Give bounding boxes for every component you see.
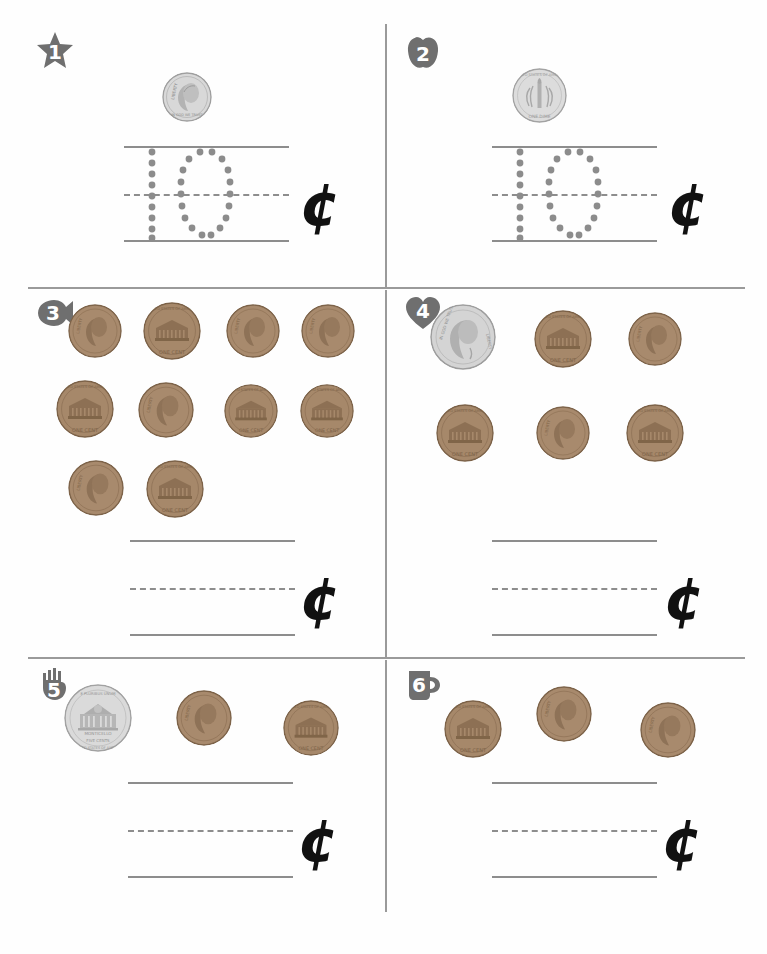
writing-line-top [492, 782, 657, 784]
panel-divider-vertical-3 [385, 660, 387, 912]
writing-line-bottom [128, 876, 293, 878]
svg-text:ONE CENT: ONE CENT [162, 507, 189, 513]
coin-penny-tails: UNITED STATES OF AMERICAONE CENT [534, 310, 592, 368]
answer-lines-2 [492, 146, 657, 242]
problem-number-badge-2: 2 [402, 30, 444, 72]
svg-text:UNITED STATES OF AMERICA: UNITED STATES OF AMERICA [629, 409, 681, 413]
problem-panel-4: 4 IN GOD WE TRUSTLIBERTY UNITED STATES O… [396, 292, 746, 652]
answer-lines-6[interactable] [492, 782, 657, 878]
panel-divider-vertical-1 [385, 24, 387, 288]
badge-number-text-5: 5 [47, 678, 61, 702]
coin-penny-tails: UNITED STATES OF AMERICAONE CENT [444, 700, 502, 758]
svg-text:UNITED STATES OF AMERICA: UNITED STATES OF AMERICA [227, 388, 276, 392]
coin-penny-heads: LIBERTY [138, 382, 194, 438]
cent-symbol-5: ¢ [298, 812, 338, 870]
coin-penny-tails: UNITED STATES OF AMERICAONE CENT [436, 404, 494, 462]
worksheet-page: 1 LIBERTY IN GOD WE TRUST [0, 0, 767, 954]
coin-penny-heads: LIBERTY [68, 304, 122, 358]
svg-text:FIVE CENTS: FIVE CENTS [86, 738, 110, 743]
svg-text:MONTICELLO: MONTICELLO [84, 731, 112, 736]
coin-penny-tails: UNITED STATES OF AMERICAONE CENT [56, 380, 114, 438]
writing-line-middle-dashed [130, 588, 295, 590]
coin-penny-tails: UNITED STATES OF AMERICAONE CENT [283, 700, 339, 756]
svg-text:ONE CENT: ONE CENT [550, 357, 577, 363]
answer-lines-4[interactable] [492, 540, 657, 636]
svg-text:ONE DIME: ONE DIME [528, 114, 550, 119]
coin-penny-heads: LIBERTY [628, 312, 682, 366]
svg-text:UNITED STATES OF AMERICA: UNITED STATES OF AMERICA [303, 388, 352, 392]
cent-symbol-2: ¢ [668, 176, 708, 234]
svg-text:UNITED STATES OF AMERICA: UNITED STATES OF AMERICA [286, 705, 336, 709]
svg-text:UNITED STATES OF AMERICA: UNITED STATES OF AMERICA [59, 385, 111, 389]
badge-number-text-1: 1 [48, 40, 62, 64]
cent-symbol-1: ¢ [300, 176, 340, 234]
svg-text:UNITED STATES OF AMERICA: UNITED STATES OF AMERICA [447, 705, 499, 709]
coin-penny-tails: UNITED STATES OF AMERICAONE CENT [143, 302, 201, 360]
coin-penny-tails: UNITED STATES OF AMERICAONE CENT [300, 384, 354, 438]
writing-line-bottom [492, 876, 657, 878]
coin-penny-heads: LIBERTY [301, 304, 355, 358]
badge-number-text-2: 2 [416, 42, 430, 66]
writing-line-top [492, 540, 657, 542]
writing-line-bottom [492, 634, 657, 636]
coin-dime-tails: UNITED STATES OF AMERICA ONE DIME [512, 68, 567, 123]
coin-penny-heads: LIBERTY [640, 702, 696, 758]
svg-text:UNITED STATES OF AMERICA: UNITED STATES OF AMERICA [514, 73, 566, 77]
svg-text:UNITED STATES OF AMERICA: UNITED STATES OF AMERICA [74, 746, 123, 750]
coin-penny-heads: LIBERTY [536, 686, 592, 742]
svg-text:ONE CENT: ONE CENT [642, 451, 669, 457]
svg-text:ONE CENT: ONE CENT [315, 428, 339, 433]
coin-penny-heads: LIBERTY [226, 304, 280, 358]
writing-line-top [128, 782, 293, 784]
coin-penny-tails: UNITED STATES OF AMERICAONE CENT [626, 404, 684, 462]
writing-line-middle-dashed [492, 588, 657, 590]
problem-panel-1: 1 LIBERTY IN GOD WE TRUST [28, 30, 378, 282]
badge-number-text-6: 6 [412, 673, 426, 697]
svg-text:UNITED STATES OF AMERICA: UNITED STATES OF AMERICA [146, 307, 198, 311]
problem-panel-6: 6 UNITED STATES OF AMERICAONE CENT LIBER… [396, 662, 746, 912]
svg-text:E PLURIBUS UNUM: E PLURIBUS UNUM [80, 691, 115, 696]
traced-number-10[interactable] [498, 146, 648, 242]
coin-dime-heads: LIBERTY IN GOD WE TRUST [162, 72, 212, 122]
coin-penny-heads: LIBERTY [68, 460, 124, 516]
writing-line-middle-dashed [492, 830, 657, 832]
badge-number-text-3: 3 [46, 301, 60, 325]
coin-penny-heads: LIBERTY [536, 406, 590, 460]
problem-number-badge-6: 6 [402, 662, 444, 704]
problem-panel-2: 2 UNITED STATES OF AMERICA ONE DIME [396, 30, 746, 282]
writing-line-bottom [130, 634, 295, 636]
cent-symbol-6: ¢ [662, 812, 702, 870]
badge-number-text-4: 4 [416, 299, 430, 323]
svg-text:ONE CENT: ONE CENT [72, 427, 99, 433]
coin-penny-heads: LIBERTY [176, 690, 232, 746]
svg-text:UNITED STATES OF AMERICA: UNITED STATES OF AMERICA [149, 465, 201, 469]
cent-symbol-4: ¢ [664, 570, 704, 628]
svg-text:IN GOD WE TRUST: IN GOD WE TRUST [171, 113, 203, 117]
svg-text:UNITED STATES OF AMERICA: UNITED STATES OF AMERICA [439, 409, 491, 413]
problem-panel-5: 5 E PLURIBUS UNUMMONTICELLOFIVE CENTSUNI… [28, 662, 378, 912]
svg-text:ONE CENT: ONE CENT [460, 747, 487, 753]
answer-lines-5[interactable] [128, 782, 293, 878]
problem-number-badge-1: 1 [34, 30, 76, 72]
writing-line-middle-dashed [128, 830, 293, 832]
svg-text:ONE CENT: ONE CENT [159, 349, 186, 355]
traced-number-10[interactable] [130, 146, 280, 242]
coin-penny-tails: UNITED STATES OF AMERICAONE CENT [146, 460, 204, 518]
svg-text:ONE CENT: ONE CENT [239, 428, 263, 433]
answer-lines-1 [124, 146, 289, 242]
writing-line-top [130, 540, 295, 542]
answer-lines-3[interactable] [130, 540, 295, 636]
coin-nickel-heads: IN GOD WE TRUSTLIBERTY [430, 304, 496, 370]
coin-penny-tails: UNITED STATES OF AMERICAONE CENT [224, 384, 278, 438]
problem-panel-3: 3 LIBERTY UNITED STATES OF AMERICAONE CE… [28, 292, 378, 652]
panel-divider-vertical-2 [385, 290, 387, 658]
coin-nickel-tails: E PLURIBUS UNUMMONTICELLOFIVE CENTSUNITE… [64, 684, 132, 752]
cent-symbol-3: ¢ [300, 570, 340, 628]
svg-text:UNITED STATES OF AMERICA: UNITED STATES OF AMERICA [537, 315, 589, 319]
svg-text:ONE CENT: ONE CENT [452, 451, 479, 457]
svg-text:ONE CENT: ONE CENT [299, 746, 324, 751]
